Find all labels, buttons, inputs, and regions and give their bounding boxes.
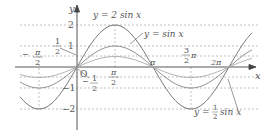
xtick-pi2-num: π [110, 68, 117, 77]
ytick-neg2: −2 [62, 104, 75, 114]
xtick-negpi2-den: 2 [35, 58, 40, 67]
y-axis-arrow [75, 5, 80, 12]
ytick-neghalf-num: 1 [92, 74, 97, 83]
xtick-negpi2-sign: − [22, 50, 29, 59]
xtick-3pi2-pi: π [190, 51, 197, 60]
xtick-3pi2-num: 3 [184, 46, 189, 55]
curve-label-sinx: y = sin x [143, 29, 184, 39]
curve-label-halfsinx-suffix: sin x [220, 107, 241, 117]
ytick-1: 1 [68, 41, 74, 51]
curve-label-halfsinx-den: 2 [213, 113, 217, 121]
xtick-pi: π [149, 58, 156, 67]
ytick-2: 2 [68, 20, 74, 30]
xtick-negpi2-num: π [34, 48, 41, 57]
curve-label-halfsinx-num: 1 [213, 104, 217, 112]
xtick-3pi2-den: 2 [184, 56, 189, 65]
ytick-half-num: 1 [55, 37, 60, 46]
ytick-neghalf-den: 2 [92, 84, 97, 93]
xtick-2pi: 2π [210, 58, 222, 67]
ytick-neg1: −1 [62, 83, 75, 93]
ytick-half-den: 2 [55, 47, 60, 56]
curve-label-halfsinx-prefix: y = [193, 107, 210, 117]
y-axis-label: y [68, 3, 75, 14]
curve-label-2sinx: y = 2 sin x [92, 10, 141, 20]
xtick-pi2-den: 2 [111, 78, 116, 87]
ytick-neghalf-sign: − [82, 77, 89, 86]
x-axis-arrow [249, 65, 256, 70]
sine-graph: y x O 2 1 1 2 −1 −2 − 1 2 − π 2 π 2 π 3 … [0, 0, 266, 137]
x-axis-label: x [255, 70, 261, 81]
